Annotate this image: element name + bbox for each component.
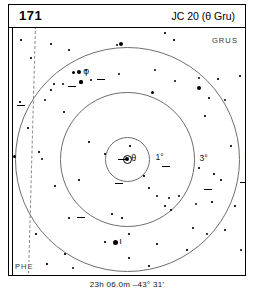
chart-left-rule <box>12 28 13 275</box>
star <box>129 145 130 146</box>
star <box>164 32 166 34</box>
star <box>88 141 89 142</box>
star <box>128 233 129 234</box>
star <box>27 127 28 128</box>
star <box>240 249 243 252</box>
double-star-bar <box>118 159 127 160</box>
star <box>224 229 225 230</box>
star <box>121 217 122 218</box>
star <box>230 145 232 147</box>
star <box>173 39 174 40</box>
star <box>156 243 157 244</box>
star <box>35 233 36 234</box>
bright-star <box>119 42 123 46</box>
star <box>68 49 69 50</box>
page-number: 171 <box>19 8 42 23</box>
constellation-label-grus: GRUS <box>212 36 238 45</box>
star <box>30 57 32 59</box>
radius-label-3deg: 3° <box>200 153 208 163</box>
double-star-bar <box>204 189 212 190</box>
star-label: φ <box>83 66 89 76</box>
star <box>46 263 47 264</box>
chart-plot-area: GRUS PHE 1° 3° 5° φιθ <box>9 28 245 275</box>
star <box>186 249 187 250</box>
star <box>143 175 145 177</box>
object-title: JC 20 (θ Gru) <box>171 10 235 22</box>
star <box>19 101 20 102</box>
star <box>151 91 154 94</box>
star <box>170 209 171 210</box>
star <box>54 185 55 186</box>
double-star-bar <box>97 79 105 80</box>
star <box>148 265 149 266</box>
radius-label-1deg: 1° <box>156 152 164 162</box>
star <box>64 253 65 254</box>
double-star-bar <box>77 217 85 218</box>
star <box>79 80 82 83</box>
star <box>195 203 197 205</box>
star <box>204 115 206 117</box>
double-star-bar <box>115 183 123 184</box>
star <box>104 153 106 155</box>
star <box>148 187 150 189</box>
star <box>53 83 55 85</box>
double-star-bar <box>17 105 25 106</box>
star <box>116 44 118 46</box>
star <box>164 205 165 206</box>
star <box>154 69 156 71</box>
radius-label-5deg: 5° <box>245 153 247 163</box>
finder-chart-page: 171 JC 20 (θ Gru) GRUS PHE 1° 3° 5° φιθ … <box>0 0 254 296</box>
star <box>13 155 16 158</box>
star <box>239 75 241 77</box>
star <box>220 179 221 180</box>
star <box>50 89 51 90</box>
star-label: θ <box>131 153 136 163</box>
star <box>72 267 75 270</box>
double-star-bar <box>68 86 76 87</box>
star <box>217 78 219 80</box>
star <box>234 205 236 207</box>
star <box>72 71 75 74</box>
star <box>68 217 69 218</box>
star <box>20 39 21 40</box>
double-star-bar <box>240 182 246 183</box>
star <box>128 257 129 258</box>
star <box>50 43 52 45</box>
double-star-bar <box>233 275 241 276</box>
star <box>168 197 170 199</box>
star <box>192 227 194 229</box>
star <box>104 241 105 242</box>
star <box>78 179 79 180</box>
double-star-bar <box>162 166 170 167</box>
star <box>213 173 214 174</box>
star <box>198 167 200 169</box>
star <box>208 97 210 99</box>
star-chart: GRUS PHE 1° 3° 5° φιθ <box>8 28 246 276</box>
chart-coordinates: 23h 06.0m –43° 31' <box>0 280 254 289</box>
star <box>224 99 226 101</box>
constellation-label-phe: PHE <box>14 262 35 271</box>
chart-header: 171 JC 20 (θ Gru) <box>8 4 246 28</box>
star <box>178 195 180 197</box>
star-label: ι <box>120 236 122 246</box>
star <box>38 151 39 152</box>
star <box>211 201 212 202</box>
bright-star <box>113 240 118 245</box>
star <box>111 213 113 215</box>
star <box>63 111 64 112</box>
